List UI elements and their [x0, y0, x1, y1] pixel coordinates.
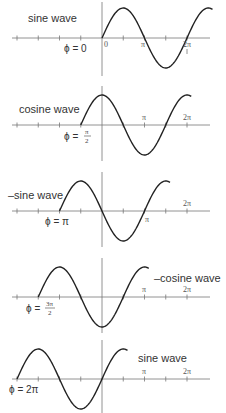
- phase-label: ϕ = 2π: [9, 384, 39, 395]
- panel-cosine-phi-pi-over-2: cosine wave ϕ = π 2 π 2π: [12, 95, 210, 155]
- phase-frac-den: 2: [85, 137, 89, 145]
- phase-label-prefix: ϕ =: [64, 131, 78, 142]
- tick-label-pi: π: [141, 40, 145, 49]
- phase-shift-diagram: sine wave ϕ = 0 0 π 2π cosine wave ϕ = π…: [0, 0, 226, 413]
- tick-label-2pi: 2π: [183, 40, 191, 49]
- wave-label: –sine wave: [8, 189, 63, 201]
- phase-frac-num: 3π: [46, 300, 54, 308]
- wave-label: cosine wave: [19, 103, 80, 115]
- tick-label-pi: π: [142, 113, 146, 122]
- tick-label-2pi: 2π: [183, 113, 191, 122]
- panel-neg-cosine-phi-3pi-over-2: –cosine wave ϕ = 3π 2 π 2π: [12, 267, 221, 327]
- wave-label: sine wave: [138, 352, 187, 364]
- tick-label-2pi: 2π: [183, 367, 191, 376]
- phase-label: ϕ = π: [45, 216, 69, 227]
- tick-label-0: 0: [104, 40, 108, 49]
- panel-neg-sine-phi-pi: –sine wave ϕ = π π 2π: [8, 181, 210, 241]
- phase-label: ϕ = 0: [64, 43, 87, 54]
- tick-label-pi: π: [142, 367, 146, 376]
- phase-frac-num: π: [85, 128, 89, 136]
- phase-label-prefix: ϕ =: [26, 303, 40, 314]
- phase-frac-den: 2: [48, 309, 52, 317]
- tick-label-2pi: 2π: [183, 285, 191, 294]
- wave-label: –cosine wave: [154, 272, 221, 284]
- tick-label-pi: π: [142, 285, 146, 294]
- panel-sine-phi-2pi: sine wave ϕ = 2π π 2π: [9, 349, 210, 409]
- panel-sine-phi-0: sine wave ϕ = 0 0 π 2π: [12, 8, 213, 68]
- tick-label-pi: π: [145, 215, 149, 224]
- wave-label: sine wave: [28, 12, 77, 24]
- tick-label-2pi: 2π: [183, 199, 191, 208]
